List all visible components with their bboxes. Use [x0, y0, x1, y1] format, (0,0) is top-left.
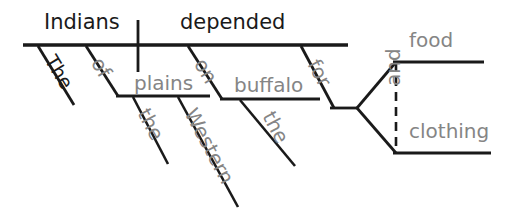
word-indians: Indians: [44, 12, 120, 33]
sentence-diagram-canvas: Indians depended The of plains the Weste…: [0, 0, 514, 219]
word-plains: plains: [134, 73, 193, 93]
word-depended: depended: [180, 12, 285, 33]
word-buffalo: buffalo: [234, 75, 303, 95]
word-and: and: [383, 48, 403, 86]
compound-fork-lower: [357, 108, 396, 153]
word-clothing: clothing: [409, 121, 489, 141]
word-food: food: [409, 30, 453, 50]
